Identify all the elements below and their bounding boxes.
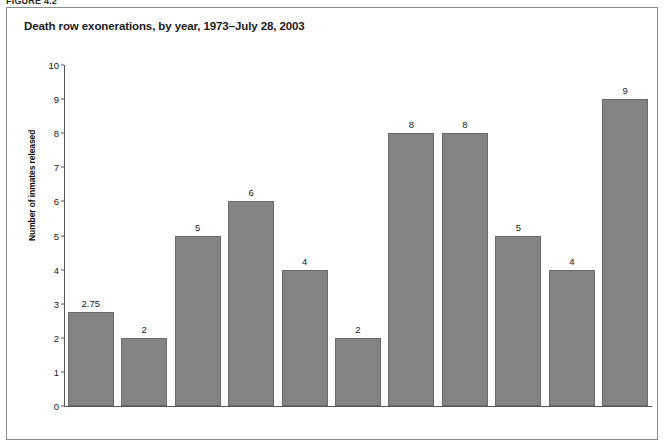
y-tick-label: 5 xyxy=(54,230,59,241)
y-tick-mark xyxy=(61,269,64,270)
bar[interactable] xyxy=(335,338,381,406)
y-tick-mark xyxy=(61,303,64,304)
bar-value-label: 2 xyxy=(335,324,381,335)
plot-area: 012345678910 2.75average peryear 1973-19… xyxy=(64,65,652,406)
bar[interactable] xyxy=(388,133,434,406)
bar[interactable] xyxy=(121,338,167,406)
bar[interactable] xyxy=(602,99,648,406)
y-tick-label: 0 xyxy=(54,401,59,412)
bar[interactable] xyxy=(495,236,541,407)
y-tick-mark xyxy=(61,406,64,407)
y-tick-label: 7 xyxy=(54,162,59,173)
y-tick-label: 2 xyxy=(54,332,59,343)
y-tick-mark xyxy=(61,201,64,202)
y-tick-label: 9 xyxy=(54,94,59,105)
y-tick-mark xyxy=(61,235,64,236)
bar-value-label: 2 xyxy=(121,324,167,335)
y-tick-mark xyxy=(61,337,64,338)
y-tick-mark xyxy=(61,371,64,372)
bar-value-label: 9 xyxy=(602,85,648,96)
bar-value-label: 5 xyxy=(495,222,541,233)
y-tick-label: 3 xyxy=(54,298,59,309)
y-tick-mark xyxy=(61,167,64,168)
bar-value-label: 6 xyxy=(228,187,274,198)
bar[interactable] xyxy=(68,312,114,406)
y-tick-label: 4 xyxy=(54,264,59,275)
bar-value-label: 5 xyxy=(175,222,221,233)
bar-value-label: 4 xyxy=(282,256,328,267)
bar-value-label: 8 xyxy=(388,119,434,130)
y-tick-label: 1 xyxy=(54,366,59,377)
y-axis-line xyxy=(64,65,65,406)
bar-value-label: 8 xyxy=(442,119,488,130)
y-tick-mark xyxy=(61,133,64,134)
y-tick-label: 8 xyxy=(54,128,59,139)
bar-value-label: 2.75 xyxy=(68,298,114,309)
bar[interactable] xyxy=(228,201,274,406)
bar[interactable] xyxy=(442,133,488,406)
y-tick-mark xyxy=(61,65,64,66)
chart-title: Death row exonerations, by year, 1973–Ju… xyxy=(24,20,305,32)
bar[interactable] xyxy=(549,270,595,406)
bar-value-label: 4 xyxy=(549,256,595,267)
figure-label: FIGURE 4.2 xyxy=(6,0,57,6)
y-tick-label: 6 xyxy=(54,196,59,207)
bar[interactable] xyxy=(175,236,221,407)
figure-panel: Death row exonerations, by year, 1973–Ju… xyxy=(6,7,658,440)
y-tick-mark xyxy=(61,99,64,100)
x-axis-line xyxy=(64,406,652,407)
bar[interactable] xyxy=(282,270,328,406)
y-tick-label: 10 xyxy=(48,60,59,71)
y-axis-title: Number of inmates released xyxy=(27,130,37,241)
